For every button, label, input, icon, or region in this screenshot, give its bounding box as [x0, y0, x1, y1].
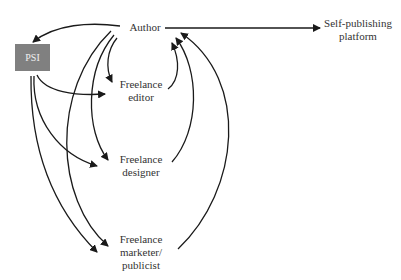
marketer-label-line3: publicist: [113, 259, 169, 272]
edge-author-marketer: [67, 31, 111, 246]
platform-label-line1: Self-publishing: [318, 17, 398, 30]
node-freelance-editor: Freelance editor: [115, 78, 167, 104]
psi-label: PSI: [25, 52, 39, 63]
designer-label-line1: Freelance: [115, 153, 167, 166]
edge-author-designer: [91, 35, 114, 160]
node-freelance-designer: Freelance designer: [115, 153, 167, 179]
edge-psi-designer: [34, 76, 97, 166]
marketer-label-line1: Freelance: [113, 233, 169, 246]
designer-label-line2: designer: [115, 166, 167, 179]
marketer-label-line2: marketer/: [113, 246, 169, 259]
edge-designer-author: [172, 38, 194, 162]
node-self-publishing-platform: Self-publishing platform: [318, 17, 398, 43]
node-psi: PSI: [15, 44, 50, 71]
editor-label-line1: Freelance: [115, 78, 167, 91]
editor-label-line2: editor: [115, 91, 167, 104]
author-label: Author: [129, 21, 160, 33]
edge-author-editor: [108, 38, 117, 82]
edge-author-psi: [33, 24, 120, 42]
edge-psi-marketer: [31, 76, 97, 252]
platform-label-line2: platform: [318, 30, 398, 43]
edge-psi-editor: [37, 75, 105, 94]
node-author: Author: [125, 21, 165, 34]
edge-editor-author: [168, 43, 178, 89]
node-freelance-marketer: Freelance marketer/ publicist: [113, 233, 169, 272]
